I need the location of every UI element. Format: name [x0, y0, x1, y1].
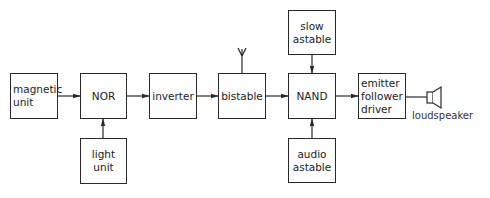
block-label: light unit: [92, 148, 115, 174]
block-label: NAND: [297, 90, 328, 103]
block-light-unit: light unit: [80, 138, 127, 184]
block-label: emitter follower driver: [361, 77, 403, 116]
block-nor: NOR: [80, 73, 127, 119]
block-slow-astable: slow astable: [288, 10, 336, 55]
block-label: audio astable: [293, 148, 332, 174]
block-magnetic-unit: magnetic unit: [10, 73, 58, 119]
block-bistable: bistable: [218, 73, 266, 119]
block-label: NOR: [92, 90, 115, 103]
antenna-icon: [238, 48, 246, 73]
block-label: inverter: [152, 90, 193, 103]
loudspeaker-label: loudspeaker: [412, 110, 473, 121]
block-inverter: inverter: [149, 73, 197, 119]
block-label: slow astable: [293, 20, 332, 46]
block-emitter-follower-driver: emitter follower driver: [358, 73, 406, 119]
speaker-icon: [427, 87, 441, 108]
block-label: magnetic unit: [13, 83, 62, 109]
block-label: bistable: [221, 90, 263, 103]
block-audio-astable: audio astable: [288, 138, 336, 183]
block-nand: NAND: [288, 73, 336, 119]
